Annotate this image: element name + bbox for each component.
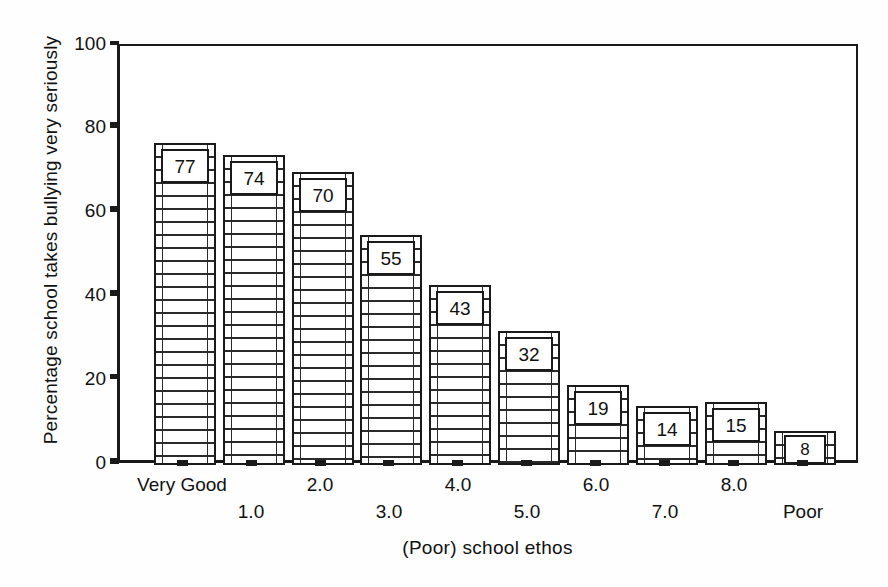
bar-6-0[interactable]: 19 bbox=[567, 385, 629, 465]
bar-1-0[interactable]: 74 bbox=[223, 155, 285, 465]
y-tick-label-0: 0 bbox=[60, 453, 106, 472]
bar-value-label: 15 bbox=[712, 408, 760, 442]
bar-value-label: 43 bbox=[436, 291, 484, 325]
bars-layer: 77 74 70 55 43 32 19 14 bbox=[120, 46, 861, 465]
y-tick-label-60: 60 bbox=[60, 201, 106, 220]
plot-area: 77 74 70 55 43 32 19 14 bbox=[117, 44, 858, 463]
bar-3-0[interactable]: 55 bbox=[360, 235, 422, 465]
bar-very-good[interactable]: 77 bbox=[154, 143, 216, 465]
bar-4-0[interactable]: 43 bbox=[429, 285, 491, 465]
x-tick-mark-7 bbox=[659, 460, 670, 466]
bar-value-label: 55 bbox=[367, 241, 415, 275]
x-tick-mark-2 bbox=[315, 460, 326, 466]
x-tick-mark-4 bbox=[452, 460, 463, 466]
x-tick-label-poor: Poor bbox=[783, 502, 823, 521]
x-tick-label-6-0: 6.0 bbox=[583, 475, 609, 494]
bar-7-0[interactable]: 14 bbox=[636, 406, 698, 465]
bar-value-label: 70 bbox=[299, 178, 347, 212]
x-tick-mark-5 bbox=[521, 460, 532, 466]
y-tick-label-80: 80 bbox=[60, 117, 106, 136]
bar-value-label: 32 bbox=[505, 337, 553, 371]
x-tick-mark-3 bbox=[383, 460, 394, 466]
bar-value-label: 77 bbox=[161, 149, 209, 183]
x-tick-label-8-0: 8.0 bbox=[721, 475, 747, 494]
x-tick-label-4-0: 4.0 bbox=[445, 475, 471, 494]
bar-value-label: 19 bbox=[574, 391, 622, 425]
x-tick-label-5-0: 5.0 bbox=[514, 502, 540, 521]
x-tick-mark-6 bbox=[590, 460, 601, 466]
x-tick-mark-0 bbox=[177, 460, 188, 466]
bar-value-label: 14 bbox=[643, 412, 691, 446]
bar-8-0[interactable]: 15 bbox=[705, 402, 767, 465]
bar-2-0[interactable]: 70 bbox=[292, 172, 354, 465]
y-tick-label-100: 100 bbox=[60, 34, 106, 53]
y-tick-label-20: 20 bbox=[60, 369, 106, 388]
x-tick-mark-1 bbox=[246, 460, 257, 466]
y-tick-label-40: 40 bbox=[60, 285, 106, 304]
x-tick-label-1-0: 1.0 bbox=[238, 502, 264, 521]
x-tick-mark-8 bbox=[728, 460, 739, 466]
bar-value-label: 74 bbox=[230, 161, 278, 195]
x-tick-label-7-0: 7.0 bbox=[652, 502, 678, 521]
x-tick-label-2-0: 2.0 bbox=[307, 475, 333, 494]
bar-5-0[interactable]: 32 bbox=[498, 331, 560, 465]
x-axis-title: (Poor) school ethos bbox=[117, 537, 858, 559]
x-tick-mark-9 bbox=[797, 460, 808, 466]
x-tick-label-very-good: Very Good bbox=[137, 475, 227, 494]
bar-chart-figure: Percentage school takes bullying very se… bbox=[0, 0, 888, 587]
y-axis-tick-labels: 100 80 60 40 20 0 bbox=[60, 0, 106, 587]
x-tick-label-3-0: 3.0 bbox=[376, 502, 402, 521]
